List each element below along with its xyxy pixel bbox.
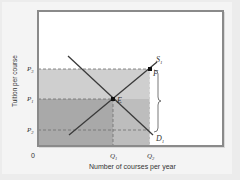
label-q1: Q1 [110,152,117,161]
label-p1: P1 [26,95,34,104]
label-p2: P2 [26,126,34,135]
area-above-P1 [38,69,150,99]
origin-label: 0 [31,152,35,159]
label-q2: Q2 [147,152,155,161]
y-axis-title: Tuition per course [11,55,19,107]
area-below-P1-left [38,99,113,146]
label-p3: P3 [26,65,34,74]
area-below-P1-right [113,99,150,146]
label-f: F [152,69,158,78]
point-e [111,97,115,101]
label-e: E [116,96,122,105]
x-axis-title: Number of courses per year [89,163,176,171]
chart-svg: E F S1 D1 P3 P1 P2 0 Q1 Q2 Number of cou… [0,0,240,180]
point-f [148,67,152,71]
